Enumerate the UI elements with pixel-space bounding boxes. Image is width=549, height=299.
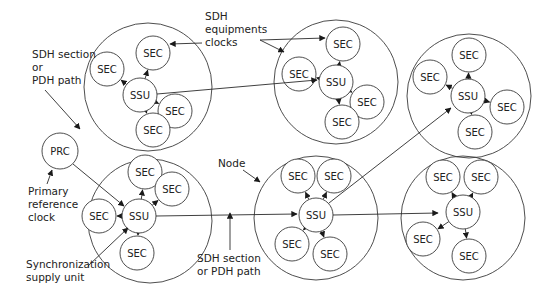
annotation-line: equipments xyxy=(205,23,267,35)
sec-label: SEC xyxy=(320,249,340,260)
sec-label: SEC xyxy=(324,171,344,182)
ssu-to-sec-arrow xyxy=(438,222,449,229)
ssu-to-sec-arrow xyxy=(152,200,158,205)
node-node-top-left: SECSECSECSECSSU xyxy=(84,23,212,151)
prc-label: PRC xyxy=(50,146,69,157)
ssu-to-sec-arrow xyxy=(471,193,473,197)
ssu-to-sec-arrow xyxy=(155,102,158,103)
ssu-to-sec-arrow xyxy=(323,192,326,199)
ssu-to-sec-arrow xyxy=(121,80,127,84)
ssu-label: SSU xyxy=(130,90,150,101)
sec-label: SEC xyxy=(497,102,517,113)
sec-label: SEC xyxy=(143,125,163,136)
annotation-line: reference xyxy=(28,198,78,210)
ssu-label: SSU xyxy=(306,210,326,221)
sec-label: SEC xyxy=(282,239,302,250)
annotation-arrow xyxy=(47,170,52,184)
annotation-line: Synchronization xyxy=(26,258,110,270)
prc-node: PRC xyxy=(42,133,78,169)
annotation-sdh-equipment-clocks: SDH equipments clocks xyxy=(170,10,325,52)
sec-label: SEC xyxy=(471,172,491,183)
ssu-to-sec-arrow xyxy=(306,192,309,199)
annotation-line: Primary xyxy=(28,185,69,197)
annotation-arrow xyxy=(45,90,80,129)
annotation-arrow xyxy=(243,170,260,182)
sec-label: SEC xyxy=(97,64,117,75)
sec-label: SEC xyxy=(289,69,309,80)
sync-network-diagram: SECSECSECSECSSUSECSECSECSECSSUSECSECSECS… xyxy=(0,0,549,299)
node-node-bottom-middle: SECSECSECSECSSU xyxy=(254,156,378,280)
annotation-line: supply unit xyxy=(26,271,84,283)
sec-label: SEC xyxy=(420,72,440,83)
sec-label: SEC xyxy=(333,39,353,50)
ssu-label: SSU xyxy=(326,77,346,88)
ssu-to-sec-arrow xyxy=(322,231,324,237)
sec-label: SEC xyxy=(135,167,155,178)
annotation-line: clocks xyxy=(205,36,237,48)
ssu-to-sec-arrow xyxy=(145,70,148,79)
ssu-label: SSU xyxy=(458,91,478,102)
annotation-primary-reference-clock: Primary reference clock xyxy=(28,170,78,223)
ssu-to-sec-arrow xyxy=(339,62,340,66)
sec-label: SEC xyxy=(332,117,352,128)
annotation-line: Node xyxy=(218,157,245,169)
ssu-to-sec-arrow xyxy=(484,101,489,102)
sec-label: SEC xyxy=(89,211,109,222)
sec-label: SEC xyxy=(413,234,433,245)
annotation-line: PDH path xyxy=(32,74,82,86)
annotation-line: or PDH path xyxy=(197,265,261,277)
annotation-sdh-section-top: SDH section or PDH path xyxy=(32,48,96,129)
ssu-label: SSU xyxy=(129,211,149,222)
sec-label: SEC xyxy=(162,184,182,195)
ssu-to-sec-arrow xyxy=(446,85,453,88)
annotation-arrow xyxy=(170,43,202,44)
sec-label: SEC xyxy=(433,172,453,183)
sec-label: SEC xyxy=(357,97,377,108)
annotation-sdh-section-bottom: SDH section or PDH path xyxy=(197,213,261,277)
sec-label: SEC xyxy=(127,248,147,259)
annotation-line: SDH xyxy=(205,10,228,22)
annotation-synchronization-supply-unit: Synchronization supply unit xyxy=(26,228,128,283)
sec-label: SEC xyxy=(143,48,163,59)
ssu-to-sec-arrow xyxy=(141,190,142,199)
sec-label: SEC xyxy=(288,171,308,182)
sync-link-node-bottom-middle-to-node-bottom-right xyxy=(333,213,438,215)
sync-link-node-bottom-left-to-node-bottom-middle xyxy=(156,214,297,216)
sec-label: SEC xyxy=(465,127,485,138)
nodes-layer: SECSECSECSECSSUSECSECSECSECSSUSECSECSECS… xyxy=(82,20,531,283)
sec-label: SEC xyxy=(165,106,185,117)
annotation-line: SDH section xyxy=(32,48,96,60)
ssu-to-sec-arrow xyxy=(339,99,340,104)
ssu-to-sec-arrow xyxy=(465,229,466,238)
annotation-arrow xyxy=(260,40,284,52)
annotation-line: clock xyxy=(28,211,56,223)
sec-label: SEC xyxy=(459,251,479,262)
ssu-to-sec-arrow xyxy=(452,193,455,198)
node-node-top-right: SECSECSECSECSSU xyxy=(407,34,531,158)
annotation-node: Node xyxy=(218,157,260,182)
annotation-line: or xyxy=(32,61,43,73)
sec-label: SEC xyxy=(459,50,479,61)
ssu-label: SSU xyxy=(453,207,473,218)
node-node-bottom-right: SECSECSECSECSSU xyxy=(401,156,525,280)
annotation-line: SDH section xyxy=(197,252,261,264)
